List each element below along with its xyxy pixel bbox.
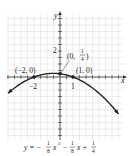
svg-text:1: 1 bbox=[92, 140, 95, 146]
tick-label-1: 1 bbox=[71, 82, 75, 91]
svg-text:4: 4 bbox=[81, 56, 84, 62]
svg-text:8: 8 bbox=[71, 148, 74, 154]
tick-label-neg2: −2 bbox=[29, 82, 37, 91]
svg-text:y = −: y = − bbox=[23, 143, 41, 152]
svg-text:4: 4 bbox=[92, 148, 95, 154]
data-point bbox=[32, 75, 36, 79]
svg-text:−: − bbox=[63, 143, 67, 152]
svg-text:1: 1 bbox=[47, 140, 50, 146]
svg-text:(0,: (0, bbox=[67, 52, 75, 61]
svg-text:1: 1 bbox=[81, 48, 84, 54]
x-axis-label: x bbox=[120, 76, 125, 85]
tick-label-2: 2 bbox=[53, 46, 57, 55]
svg-text:2: 2 bbox=[58, 141, 61, 146]
data-point bbox=[71, 75, 75, 79]
point-label-1: (1, 0) bbox=[76, 66, 93, 75]
svg-text:): ) bbox=[86, 52, 89, 61]
parabola-curve bbox=[8, 73, 119, 114]
svg-text:8: 8 bbox=[47, 148, 50, 154]
point-label-neg2: (−2, 0) bbox=[15, 66, 36, 75]
points bbox=[8, 72, 119, 114]
equation-label: y = − 1 8 x 2 − 1 8 x + 1 4 bbox=[23, 140, 96, 154]
y-axis-label: y bbox=[53, 11, 58, 20]
svg-text:x +: x + bbox=[76, 143, 87, 152]
svg-text:1: 1 bbox=[71, 140, 74, 146]
parabola-chart: y x −2 1 2 (−2, 0) (1, 0) (0, 1 4 ) y = … bbox=[0, 0, 130, 156]
svg-text:x: x bbox=[52, 143, 57, 152]
